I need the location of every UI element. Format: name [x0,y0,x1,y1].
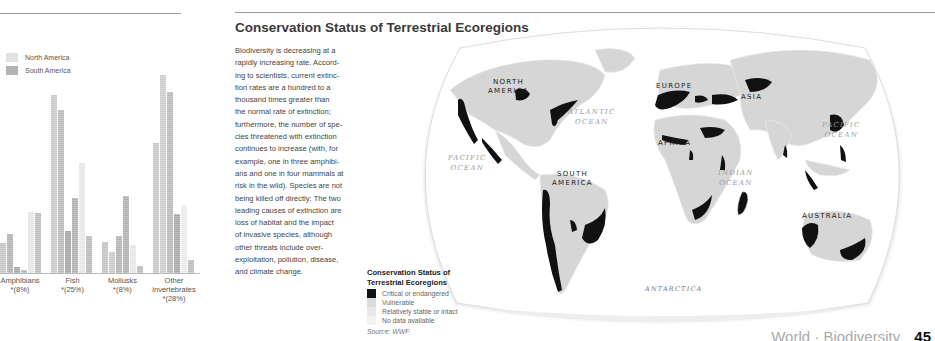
map-legend: Conservation Status of Terrestrial Ecore… [367,268,487,335]
bar [72,198,78,273]
body-text-line: other threats include over- [235,242,363,254]
swatch-critical [367,289,376,298]
swatch-vulnerable [367,298,376,307]
body-text: Biodiversity is decreasing at arapidly i… [235,45,363,279]
continent-label-australia: AUSTRALIA [802,212,852,221]
bar [174,214,180,273]
bar [7,234,13,273]
x-label-fish: Fish *(25%) [50,276,95,294]
body-text-line: ing to scientists, current extinc- [235,70,363,82]
bar [130,245,136,273]
bar [102,242,108,273]
bar [123,196,129,273]
continent-label-north-america: NORTH AMERICA [488,78,529,96]
body-text-line: risk in the wild). Species are not [235,180,363,192]
x-label-other: Other [146,276,202,285]
x-label-other-invertebrates: Other invertebrates *(28%) [146,276,202,303]
map-legend-item-critical: Critical or endangered [367,289,487,298]
body-text-line: loss of habitat and the impact [235,217,363,229]
map-legend-items: Critical or endangered Vulnerable Relati… [367,289,487,325]
ocean-label-pacific-east: PACIFIC OCEAN [822,120,861,140]
map-legend-title-line2: Terrestrial Ecoregions [367,278,487,288]
ocean-label-atlantic: ATLANTIC OCEAN [568,107,616,127]
bar [109,252,115,273]
continent-label-asia: ASIA [741,93,762,102]
continent-label-africa: AFRICA [658,139,691,148]
x-label-amphibians: Amphibians *(8%) [0,276,50,294]
bar [58,110,64,273]
footer-topic: Biodiversity [823,328,900,341]
body-text-line: furthermore, the number of spe- [235,119,363,131]
bar [86,236,92,273]
antarctica-label: ANTARCTICA [645,284,703,294]
body-text-line: exploitation, pollution, disease, [235,254,363,266]
bar [0,243,6,273]
bar [28,212,34,273]
body-text-line: cies threatened with extinction [235,131,363,143]
bar [35,213,41,273]
body-text-line: and climate change. [235,266,363,278]
swatch-stable [367,307,376,316]
body-text-line: being killed off directly: The two [235,193,363,205]
map-legend-item-stable: Relatively stable or intact [367,307,487,316]
body-text-line: continues to increase (with, for [235,143,363,155]
swatch-no-data [367,316,376,325]
x-label-invertebrates: invertebrates [146,285,202,294]
bar [181,205,187,273]
bar [65,231,71,273]
page-number: 45 [914,328,931,341]
bar [188,260,194,273]
bar [137,266,143,273]
body-text-line: thousand times greater than [235,94,363,106]
map-legend-item-vulnerable: Vulnerable [367,298,487,307]
ocean-label-indian: INDIAN OCEAN [718,168,754,188]
bar [116,236,122,273]
ocean-label-pacific-west: PACIFIC OCEAN [448,153,487,173]
body-text-line: example, one in three amphibi- [235,156,363,168]
header-rule [235,12,935,13]
body-text-line: the normal rate of extinction; [235,106,363,118]
source-note: Source: WWF [367,328,487,335]
body-text-line: rapidly increasing rate. Accord- [235,57,363,69]
bar [167,92,173,273]
bar [153,143,159,273]
bar [51,95,57,273]
footer-section: World [771,328,810,341]
continent-label-south-america: SOUTH AMERICA [552,170,593,188]
continent-label-europe: EUROPE [656,82,692,91]
body-text-line: leading causes of extinction are [235,205,363,217]
body-text-line: Biodiversity is decreasing at a [235,45,363,57]
x-label-mollusks: Mollusks *(8%) [100,276,145,294]
map-legend-title-line1: Conservation Status of [367,268,487,278]
body-text-line: of invasive species, although [235,229,363,241]
bar [79,163,85,273]
chart-baseline [0,273,200,274]
bar [160,75,166,273]
body-text-line: tion rates are a hundred to a [235,82,363,94]
map-legend-item-no-data: No data available [367,316,487,325]
page-footer: World · Biodiversity 45 [771,328,931,341]
body-text-line: ans and one in four mammals at [235,168,363,180]
